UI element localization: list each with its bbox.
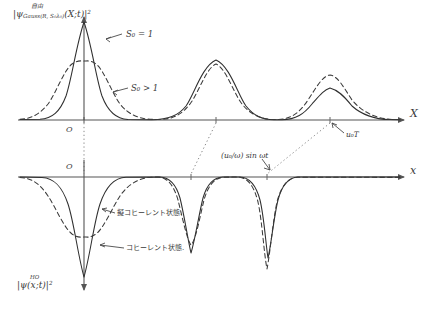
- connector-lines: [84, 123, 330, 174]
- axis-label-x: x: [410, 165, 416, 176]
- formula-top-psi: |ψ: [13, 9, 23, 19]
- annotation-sin-omega-t: (u₀/ω) sin ωt: [221, 152, 268, 160]
- origin-label-top: O: [66, 126, 73, 134]
- connector-3: [267, 123, 330, 174]
- curve-coherent-state: [20, 177, 400, 277]
- arrow-s0-eq-head: [106, 37, 111, 42]
- formula-top-power: 2: [87, 9, 91, 15]
- annotation-u0T: u₀T: [346, 131, 359, 139]
- annotation-coherent-state: コヒーレント状態.: [126, 245, 184, 252]
- curve-s0-greater-1: [20, 61, 400, 120]
- curve-s0-equal-1: [20, 22, 400, 120]
- bottom-panel: [18, 160, 404, 290]
- figure-canvas: 自由|ψGauss(R, S₀λ₀)(X;t)|2 HO|ψ(x;t)|2 X …: [0, 0, 426, 314]
- origin-label-bottom: O: [66, 163, 73, 171]
- top-panel: [18, 17, 404, 123]
- formula-bottom-arg: (x;t)|: [27, 280, 49, 290]
- formula-bottom-power: 2: [49, 280, 53, 286]
- bottom-panel-formula: HO|ψ(x;t)|2: [17, 281, 52, 290]
- formula-top-arg: (X;t)|: [64, 9, 87, 19]
- formula-top-subscript: Gauss(R, S₀λ₀): [23, 13, 64, 19]
- formula-bottom-overscript: HO: [30, 275, 39, 281]
- annotation-s0-equals-1: S₀ = 1: [126, 30, 153, 39]
- arrow-u0t: [332, 123, 344, 133]
- curve-quasi-coherent-state: [20, 177, 400, 269]
- top-panel-formula: 自由|ψGauss(R, S₀λ₀)(X;t)|2: [13, 10, 91, 20]
- annotation-s0-greater-1: S₀ > 1: [131, 84, 158, 93]
- annotation-quasi-coherent-state: 擬コヒーレント状態.: [117, 210, 182, 217]
- plot-svg: [0, 0, 426, 314]
- connector-2: [191, 123, 216, 174]
- axis-label-X: X: [410, 108, 418, 119]
- formula-top-overscript: 自由: [31, 3, 43, 9]
- formula-bottom-psi: |ψ: [17, 280, 27, 290]
